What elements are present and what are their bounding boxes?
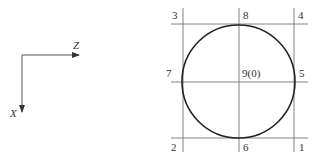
- point-label-3: 3: [172, 9, 178, 21]
- point-label-9-origin: 9(0): [242, 67, 261, 80]
- point-label-7: 7: [166, 67, 172, 79]
- point-label-1: 1: [299, 141, 305, 153]
- point-label-4: 4: [298, 9, 304, 21]
- diagram-canvas: Z X 3 8 4 7 9(0) 5 2 6 1: [0, 0, 320, 160]
- point-label-5: 5: [299, 67, 305, 79]
- x-axis-label: X: [9, 107, 18, 119]
- grid-lines: [171, 8, 308, 152]
- point-label-8: 8: [243, 9, 249, 21]
- z-axis-label: Z: [73, 39, 80, 51]
- point-label-2: 2: [171, 141, 177, 153]
- circle: [182, 25, 295, 138]
- point-label-6: 6: [243, 141, 249, 153]
- point-labels: 3 8 4 7 9(0) 5 2 6 1: [166, 9, 305, 153]
- coordinate-axes: Z X: [9, 39, 80, 119]
